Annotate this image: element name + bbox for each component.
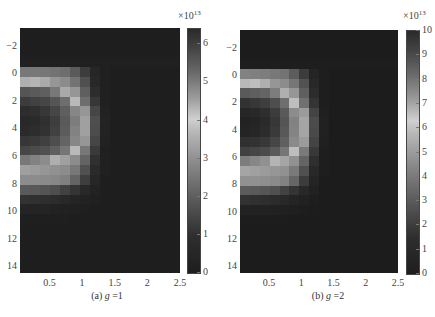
heatmap-cell	[140, 136, 150, 146]
heatmap-cell	[289, 117, 299, 127]
heatmap-cell	[130, 106, 140, 116]
heatmap-cell	[280, 234, 290, 244]
y-tick-label: 6	[221, 152, 237, 162]
heatmap-cell	[20, 97, 30, 107]
heatmap-cell	[60, 185, 70, 195]
heatmap-cell	[270, 254, 280, 264]
colorbar-tick-label: 2	[422, 219, 427, 229]
heatmap-cell	[90, 204, 100, 214]
heatmap-cell	[378, 88, 388, 98]
heatmap-cell	[80, 214, 90, 224]
heatmap-cell	[40, 38, 50, 48]
caption-a: (a) g =1	[47, 290, 167, 301]
heatmap-cell	[160, 57, 170, 67]
heatmap-cell	[329, 166, 339, 176]
heatmap-cell	[160, 155, 170, 165]
heatmap-cell	[150, 195, 160, 205]
heatmap-cell	[50, 155, 60, 165]
heatmap-cell	[309, 244, 319, 254]
heatmap-cell	[329, 59, 339, 69]
heatmap-cell	[170, 224, 180, 234]
heatmap-cell	[90, 155, 100, 165]
heatmap-cell	[50, 244, 60, 254]
caption-suffix: =2	[331, 290, 344, 301]
heatmap-cell	[50, 263, 60, 273]
heatmap-cell	[130, 77, 140, 87]
heatmap-cell	[240, 195, 250, 205]
heatmap-cell	[378, 40, 388, 50]
heatmap-cell	[70, 136, 80, 146]
heatmap-cell	[359, 176, 369, 186]
heatmap-cell	[140, 175, 150, 185]
heatmap-cell	[140, 165, 150, 175]
heatmap-cell	[70, 263, 80, 273]
heatmap-cell	[50, 146, 60, 156]
heatmap-cell	[309, 127, 319, 137]
heatmap-cell	[150, 126, 160, 136]
heatmap-cell	[329, 156, 339, 166]
heatmap-cell	[130, 253, 140, 263]
heatmap-cell	[368, 69, 378, 79]
heatmap-cell	[280, 79, 290, 89]
heatmap-cell	[20, 234, 30, 244]
heatmap-cell	[270, 88, 280, 98]
heatmap-cell	[270, 79, 280, 89]
heatmap-cell	[319, 166, 329, 176]
heatmap-cell	[299, 98, 309, 108]
heatmap-cell	[368, 166, 378, 176]
heatmap-cell	[309, 195, 319, 205]
heatmap-cell	[140, 234, 150, 244]
heatmap-cell	[30, 204, 40, 214]
heatmap-cell	[339, 224, 349, 234]
heatmap-cell	[120, 195, 130, 205]
heatmap-cell	[339, 117, 349, 127]
heatmap-cell	[20, 126, 30, 136]
heatmap-cell	[280, 88, 290, 98]
heatmap-cell	[120, 28, 130, 38]
heatmap-cell	[359, 215, 369, 225]
heatmap-cell	[30, 57, 40, 67]
heatmap-cell	[160, 195, 170, 205]
heatmap-cell	[90, 126, 100, 136]
heatmap-cell	[299, 79, 309, 89]
heatmap-cell	[40, 77, 50, 87]
heatmap-cell	[240, 205, 250, 215]
heatmap-cell	[240, 49, 250, 59]
heatmap-cell	[339, 108, 349, 118]
colorbar-tick-mark	[197, 272, 200, 273]
heatmap-cell	[260, 234, 270, 244]
heatmap-cell	[60, 106, 70, 116]
heatmap-cell	[150, 87, 160, 97]
heatmap-cell	[60, 155, 70, 165]
heatmap-cell	[20, 57, 30, 67]
heatmap-cell	[120, 97, 130, 107]
heatmap-cell	[150, 136, 160, 146]
heatmap-cell	[130, 165, 140, 175]
heatmap-cell	[50, 214, 60, 224]
heatmap-cell	[270, 117, 280, 127]
heatmap-cell	[319, 244, 329, 254]
heatmap-cell	[309, 98, 319, 108]
heatmap-cell	[20, 175, 30, 185]
heatmap-cell	[30, 155, 40, 165]
heatmap-cell	[70, 77, 80, 87]
heatmap-cell	[30, 244, 40, 254]
heatmap-cell	[50, 67, 60, 77]
heatmap-cell	[299, 137, 309, 147]
heatmap-cell	[170, 175, 180, 185]
heatmap-cell	[60, 214, 70, 224]
heatmap-cell	[329, 263, 339, 273]
heatmap-cell	[359, 108, 369, 118]
heatmap-cell	[368, 147, 378, 157]
heatmap-cell	[80, 185, 90, 195]
heatmap-cell	[299, 176, 309, 186]
heatmap-cell	[270, 215, 280, 225]
heatmap-cell	[319, 234, 329, 244]
heatmap-cell	[150, 67, 160, 77]
heatmap-cell	[339, 215, 349, 225]
heatmap-cell	[368, 215, 378, 225]
heatmap-cell	[110, 234, 120, 244]
heatmap-cell	[240, 224, 250, 234]
heatmap-cell	[160, 263, 170, 273]
heatmap-cell	[130, 38, 140, 48]
